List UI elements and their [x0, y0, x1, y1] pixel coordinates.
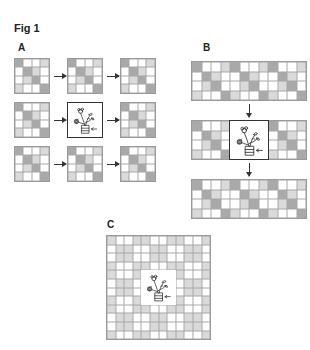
grid-cell: [107, 313, 116, 322]
grid-cell: [146, 59, 154, 67]
grid-cell: [116, 296, 125, 305]
grid-cell: [159, 322, 168, 331]
grid-cell: [240, 72, 250, 82]
grid-cell: [107, 270, 116, 279]
grid-cell: [297, 91, 307, 101]
grid-cell: [268, 190, 278, 200]
grid-cell: [141, 331, 150, 340]
grid-cell: [202, 296, 211, 305]
grid-cell: [116, 245, 125, 254]
grid-cell: [287, 199, 297, 209]
grid-cell: [116, 262, 125, 271]
grid-cell: [297, 180, 307, 190]
grid-cell: [193, 262, 202, 271]
grid-cell: [159, 236, 168, 245]
grid-cell: [138, 164, 146, 172]
tile-grid: [14, 146, 50, 182]
grid-cell: [184, 270, 193, 279]
grid-cell: [121, 172, 129, 180]
strip-grid: [191, 61, 307, 101]
grid-cell: [146, 111, 154, 119]
grid-cell: [259, 62, 269, 72]
grid-cell: [129, 84, 137, 92]
grid-cell: [23, 164, 31, 172]
grid-cell: [32, 164, 40, 172]
tile-grid: [67, 146, 103, 182]
grid-cell: [192, 190, 202, 200]
grid-cell: [23, 76, 31, 84]
grid-cell: [107, 262, 116, 271]
grid-cell: [107, 331, 116, 340]
grid-cell: [141, 313, 150, 322]
plant-drawing: [67, 102, 103, 138]
grid-cell: [133, 288, 142, 297]
grid-cell: [240, 199, 250, 209]
grid-cell: [150, 305, 159, 314]
grid-cell: [23, 147, 31, 155]
grid-cell: [68, 76, 76, 84]
grid-cell: [85, 172, 93, 180]
grid-cell: [85, 76, 93, 84]
grid-cell: [40, 103, 48, 111]
tile-grid: [14, 102, 50, 138]
arrow-right-icon: [107, 120, 119, 121]
grid-cell: [297, 72, 307, 82]
grid-cell: [85, 84, 93, 92]
grid-cell: [32, 76, 40, 84]
grid-cell: [121, 164, 129, 172]
grid-cell: [287, 121, 297, 131]
grid-cell: [116, 270, 125, 279]
grid-cell: [146, 147, 154, 155]
grid-cell: [159, 262, 168, 271]
grid-cell: [211, 190, 221, 200]
grid-cell: [278, 72, 288, 82]
grid-cell: [23, 67, 31, 75]
grid-cell: [133, 331, 142, 340]
grid-cell: [15, 67, 23, 75]
grid-cell: [167, 236, 176, 245]
grid-cell: [129, 59, 137, 67]
grid-cell: [184, 331, 193, 340]
grid-cell: [297, 209, 307, 219]
grid-cell: [297, 81, 307, 91]
grid-cell: [138, 59, 146, 67]
grid-cell: [93, 155, 101, 163]
grid-cell: [76, 84, 84, 92]
grid-cell: [167, 253, 176, 262]
grid-cell: [23, 59, 31, 67]
grid-cell: [138, 111, 146, 119]
grid-cell: [107, 322, 116, 331]
grid-cell: [138, 155, 146, 163]
grid-cell: [193, 236, 202, 245]
grid-cell: [240, 209, 250, 219]
grid-cell: [193, 331, 202, 340]
grid-cell: [240, 190, 250, 200]
grid-cell: [268, 199, 278, 209]
grid-cell: [40, 59, 48, 67]
grid-cell: [124, 305, 133, 314]
grid-cell: [150, 322, 159, 331]
grid-cell: [287, 91, 297, 101]
grid-cell: [129, 128, 137, 136]
grid-cell: [202, 288, 211, 297]
grid-cell: [249, 209, 259, 219]
grid-cell: [268, 62, 278, 72]
grid-cell: [202, 253, 211, 262]
grid-cell: [287, 140, 297, 150]
grid-cell: [124, 331, 133, 340]
grid-cell: [32, 120, 40, 128]
grid-cell: [202, 131, 212, 141]
figure-title: Fig 1: [14, 22, 40, 34]
grid-cell: [221, 91, 231, 101]
grid-cell: [85, 164, 93, 172]
grid-cell: [76, 59, 84, 67]
grid-cell: [76, 147, 84, 155]
grid-cell: [192, 81, 202, 91]
panel-label-b: B: [203, 42, 210, 53]
grid-cell: [211, 199, 221, 209]
grid-cell: [129, 172, 137, 180]
grid-cell: [146, 103, 154, 111]
arrow-down-icon: [249, 163, 250, 176]
grid-cell: [221, 209, 231, 219]
grid-cell: [176, 270, 185, 279]
